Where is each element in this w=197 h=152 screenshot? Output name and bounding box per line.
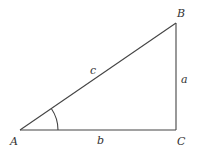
side-c-hypotenuse xyxy=(20,23,176,130)
side-label-a: a xyxy=(181,73,188,86)
vertex-label-C: C xyxy=(177,135,186,148)
triangle-diagram: A B C a b c xyxy=(0,0,197,152)
vertex-label-B: B xyxy=(176,7,185,20)
vertex-label-A: A xyxy=(9,135,18,148)
side-label-b: b xyxy=(97,134,104,147)
angle-arc-at-A xyxy=(51,109,58,131)
side-label-c: c xyxy=(90,64,96,77)
